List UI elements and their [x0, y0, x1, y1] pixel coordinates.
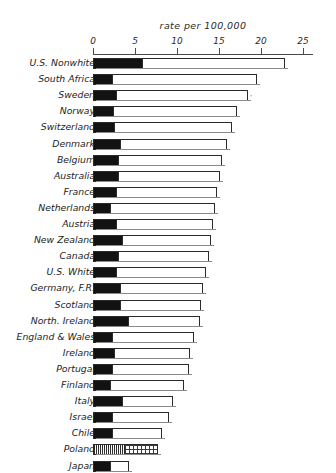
bar-shadow	[96, 84, 260, 85]
chart-row: Denmark	[0, 137, 336, 154]
bar-sweden	[93, 90, 248, 101]
x-tick-label-20: 20	[255, 36, 266, 46]
x-tick-mark-0	[93, 48, 94, 54]
bar-shadow	[96, 310, 204, 311]
bar-light-segment	[118, 156, 221, 165]
bar-dark-segment	[94, 172, 118, 181]
bar-scotland	[93, 300, 201, 311]
bar-dark-segment	[94, 429, 112, 438]
bar-shadow	[96, 406, 176, 407]
chart-row: Sweden	[0, 88, 336, 105]
chart-row: Austria	[0, 217, 336, 234]
bar-dark-segment	[94, 91, 116, 100]
bar-dark-segment	[94, 397, 122, 406]
bar-light-segment	[122, 236, 211, 245]
bar-dark-segment	[94, 462, 110, 471]
bar-dark-segment	[94, 220, 116, 229]
bar-shadow	[96, 68, 288, 69]
bar-belgium	[93, 155, 222, 166]
bar-israel	[93, 412, 169, 423]
bar-shadow	[96, 277, 209, 278]
chart-row: Switzerland	[0, 120, 336, 137]
bar-light-segment	[114, 349, 189, 358]
chart-row: France	[0, 185, 336, 202]
bar-shadow	[96, 165, 225, 166]
chart-row: Japan	[0, 459, 336, 473]
bar-light-segment	[116, 188, 216, 197]
chart-row: South Africa	[0, 72, 336, 89]
bar-light-segment	[124, 445, 156, 454]
bar-chile	[93, 428, 162, 439]
bar-shadow	[96, 149, 230, 150]
bar-light-segment	[142, 59, 284, 68]
category-label-south-africa: South Africa	[38, 73, 95, 84]
bar-dark-segment	[94, 236, 122, 245]
bar-shadow	[96, 132, 235, 133]
bar-dark-segment	[94, 284, 120, 293]
bar-light-segment	[110, 204, 214, 213]
bar-light-segment	[120, 301, 200, 310]
x-tick-mark-25	[303, 48, 304, 54]
chart-row: Ireland	[0, 346, 336, 363]
category-label-poland: Poland	[64, 443, 95, 454]
category-label-germany-f-r: Germany, F.R.	[30, 282, 95, 293]
chart-row: Canada	[0, 249, 336, 266]
bar-u-s-white	[93, 267, 206, 278]
bar-light-segment	[120, 284, 202, 293]
chart-row: Belgium	[0, 153, 336, 170]
bar-dark-segment	[94, 268, 116, 277]
bar-light-segment	[110, 381, 183, 390]
chart-row: Scotland	[0, 298, 336, 315]
bar-australia	[93, 171, 220, 182]
x-tick-label-0: 0	[90, 36, 96, 46]
bar-dark-segment	[94, 445, 124, 454]
category-label-u-s-nonwhite: U.S. Nonwhite	[29, 57, 95, 68]
bar-ireland	[93, 348, 190, 359]
category-label-ireland: Ireland	[63, 347, 95, 358]
bar-south-africa	[93, 74, 257, 85]
chart-row: Italy	[0, 394, 336, 411]
bar-switzerland	[93, 122, 232, 133]
bar-shadow	[96, 116, 240, 117]
category-label-portugal: Portugal	[56, 363, 95, 374]
bar-light-segment	[128, 317, 198, 326]
category-label-new-zealand: New Zealand	[34, 234, 95, 245]
bar-dark-segment	[94, 333, 112, 342]
bar-england-wales	[93, 332, 194, 343]
bar-dark-segment	[94, 156, 118, 165]
category-label-israel: Israel	[70, 411, 95, 422]
bar-shadow	[96, 342, 197, 343]
bar-dark-segment	[94, 107, 113, 116]
category-label-switzerland: Switzerland	[41, 121, 95, 132]
bar-shadow	[96, 438, 165, 439]
bar-dark-segment	[94, 349, 114, 358]
category-label-australia: Australia	[54, 170, 95, 181]
bar-dark-segment	[94, 204, 110, 213]
x-tick-mark-10	[177, 48, 178, 54]
bar-denmark	[93, 139, 227, 150]
bar-light-segment	[118, 252, 208, 261]
chart-row: U.S. White	[0, 265, 336, 282]
bar-dark-segment	[94, 123, 114, 132]
category-label-sweden: Sweden	[58, 89, 95, 100]
bar-light-segment	[113, 107, 236, 116]
bar-germany-f-r	[93, 283, 203, 294]
bar-light-segment	[118, 172, 218, 181]
category-label-finland: Finland	[61, 379, 95, 390]
bar-shadow	[96, 245, 214, 246]
chart-row: Israel	[0, 410, 336, 427]
bar-dark-segment	[94, 317, 128, 326]
chart-row: Germany, F.R.	[0, 281, 336, 298]
bar-shadow	[96, 422, 172, 423]
bar-light-segment	[112, 365, 187, 374]
category-label-denmark: Denmark	[52, 138, 95, 149]
category-label-canada: Canada	[60, 250, 95, 261]
bar-shadow	[96, 454, 161, 455]
chart-row: Chile	[0, 426, 336, 443]
axis-title: rate per 100,000	[93, 20, 313, 31]
chart-row: England & Wales	[0, 330, 336, 347]
category-label-italy: Italy	[75, 395, 95, 406]
bar-finland	[93, 380, 184, 391]
category-label-japan: Japan	[69, 460, 95, 471]
bar-dark-segment	[94, 365, 112, 374]
